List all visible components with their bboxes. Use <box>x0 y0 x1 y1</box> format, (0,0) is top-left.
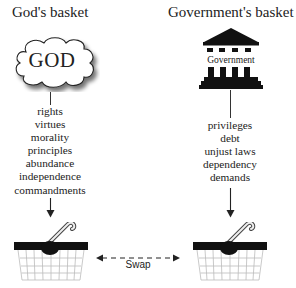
gods-basket-title: God's basket <box>12 4 88 21</box>
list-item: dependency <box>180 158 280 171</box>
governments-basket-title: Government's basket <box>168 4 294 21</box>
list-item: debt <box>180 132 280 145</box>
gods-basket-icon <box>12 222 90 284</box>
list-item: demands <box>180 171 280 184</box>
government-label: Government <box>199 55 263 65</box>
list-item: principles <box>0 144 100 157</box>
governments-basket-list: privileges debt unjust laws dependency d… <box>180 119 280 184</box>
arrow-down-icon <box>225 188 236 218</box>
list-item: virtues <box>0 118 100 131</box>
swap-double-arrow-icon <box>96 249 180 259</box>
list-item: unjust laws <box>180 145 280 158</box>
right-connector-line <box>230 90 231 118</box>
left-connector-line <box>50 92 51 105</box>
list-item: privileges <box>180 119 280 132</box>
list-item: commandments <box>0 184 100 197</box>
gods-basket-list: rights virtues morality principles abund… <box>0 105 100 197</box>
governments-basket-icon <box>191 222 269 284</box>
god-label: GOD <box>12 48 92 73</box>
list-item: morality <box>0 131 100 144</box>
arrow-down-icon <box>45 198 56 218</box>
list-item: abundance <box>0 157 100 170</box>
list-item: independence <box>0 170 100 183</box>
swap-label: Swap <box>96 259 180 270</box>
list-item: rights <box>0 105 100 118</box>
